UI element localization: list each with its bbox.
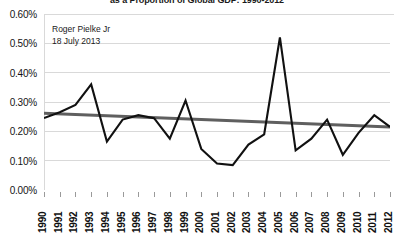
plot-top-border	[44, 14, 394, 15]
x-axis-tick	[154, 192, 155, 197]
x-axis-tick	[248, 192, 249, 197]
trend-line	[44, 113, 390, 127]
x-axis-tick-label: 2004	[257, 212, 268, 233]
trend-line-path	[44, 113, 390, 127]
x-axis-tick-label: 1993	[84, 212, 95, 233]
x-axis-tick	[264, 192, 265, 197]
x-axis-tick	[296, 192, 297, 197]
x-axis-tick	[217, 192, 218, 197]
x-axis-tick	[138, 192, 139, 197]
annotation-date: 18 July 2013	[52, 36, 110, 48]
x-axis-tick-label: 2012	[383, 212, 394, 233]
y-axis-tick-label: 0.60%	[10, 9, 37, 20]
y-axis-tick-label: 0.40%	[10, 67, 37, 78]
x-axis-tick-label: 2011	[367, 212, 378, 233]
x-axis-tick-label: 1997	[147, 212, 158, 233]
x-axis-tick	[374, 192, 375, 197]
annotation-block: Roger Pielke Jr 18 July 2013	[52, 24, 110, 47]
y-axis-tick-label: 0.10%	[10, 155, 37, 166]
x-axis-tick	[107, 192, 108, 197]
x-axis-tick-label: 2007	[304, 212, 315, 233]
x-axis-tick-label: 2000	[194, 212, 205, 233]
x-axis-tick-label: 2001	[210, 212, 221, 233]
x-axis-tick-label: 1999	[179, 212, 190, 233]
x-axis-tick	[390, 192, 391, 197]
chart-container: as a Proportion of Global GDP: 1990-2012…	[0, 0, 394, 233]
x-axis-tick	[91, 192, 92, 197]
y-axis-tick-label: 0.00%	[10, 185, 37, 196]
data-series-line	[44, 37, 390, 165]
x-axis-tick	[44, 192, 45, 197]
x-axis-tick-label: 2009	[336, 212, 347, 233]
y-axis-tick-label: 0.50%	[10, 38, 37, 49]
y-axis-tick-label: 0.20%	[10, 126, 37, 137]
x-axis-tick-label: 1996	[131, 212, 142, 233]
x-axis-tick	[311, 192, 312, 197]
x-axis-tick-label: 1998	[163, 212, 174, 233]
x-axis-tick-label: 2006	[289, 212, 300, 233]
x-axis-tick-label: 2005	[273, 212, 284, 233]
x-axis-tick-label: 1994	[100, 212, 111, 233]
x-axis-tick	[123, 192, 124, 197]
x-axis-tick	[75, 192, 76, 197]
x-axis-tick-label: 1995	[116, 212, 127, 233]
x-axis-tick	[343, 192, 344, 197]
x-axis-tick	[327, 192, 328, 197]
x-axis-tick	[280, 192, 281, 197]
x-axis-tick	[170, 192, 171, 197]
annotation-author: Roger Pielke Jr	[52, 24, 110, 36]
series-polyline	[44, 37, 390, 165]
x-axis-tick	[201, 192, 202, 197]
x-axis-tick-label: 1990	[37, 212, 48, 233]
y-axis-labels: 0.60% 0.50% 0.40% 0.30% 0.20% 0.10% 0.00…	[0, 14, 40, 190]
x-axis-labels: 1990199119921993199419951996199719981999…	[44, 192, 390, 233]
x-axis-tick	[186, 192, 187, 197]
x-axis-tick-label: 1992	[68, 212, 79, 233]
chart-title: as a Proportion of Global GDP: 1990-2012	[0, 0, 394, 5]
x-axis-tick	[359, 192, 360, 197]
x-axis-tick	[60, 192, 61, 197]
x-axis-tick-label: 2002	[226, 212, 237, 233]
x-axis-tick-label: 2010	[352, 212, 363, 233]
x-axis-tick-label: 2003	[241, 212, 252, 233]
y-axis-tick-label: 0.30%	[10, 97, 37, 108]
x-axis-tick-label: 2008	[320, 212, 331, 233]
x-axis-tick-label: 1991	[53, 212, 64, 233]
x-axis-tick	[233, 192, 234, 197]
